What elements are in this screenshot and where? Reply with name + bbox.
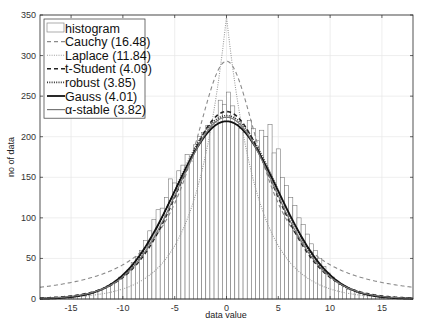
y-tick-label: 300	[21, 51, 36, 61]
histogram-bar	[231, 106, 235, 299]
histogram-bar	[227, 92, 231, 299]
histogram-bar	[189, 161, 193, 299]
histogram-bar	[193, 145, 197, 299]
y-tick-label: 0	[31, 294, 36, 304]
histogram-bar	[222, 104, 226, 299]
y-tick-label: 100	[21, 213, 36, 223]
x-tick-label: -5	[171, 303, 179, 313]
histogram-bar	[285, 185, 289, 299]
histogram-bar	[214, 122, 218, 299]
histogram-bar	[218, 100, 222, 299]
histogram-bar	[210, 127, 214, 299]
x-tick-label: 15	[377, 303, 387, 313]
histogram-bar	[347, 289, 351, 299]
histogram-bar	[235, 125, 239, 299]
histogram-bar	[123, 275, 127, 299]
y-tick-label: 150	[21, 172, 36, 182]
histogram-bar	[197, 137, 201, 299]
x-tick-label: 10	[325, 303, 335, 313]
legend-entry: Laplace (11.84)	[65, 49, 151, 63]
distribution-fit-chart: -15-10-5051015050100150200250300350 data…	[0, 0, 424, 334]
y-tick-label: 50	[26, 253, 36, 263]
x-tick-label: -10	[116, 303, 129, 313]
histogram-bar	[243, 133, 247, 299]
histogram-bar	[272, 153, 276, 299]
histogram-bar	[119, 277, 123, 299]
y-axis-label: no of data	[6, 137, 16, 177]
legend-entry: Gauss (4.01)	[65, 90, 137, 104]
histogram-bar	[276, 149, 280, 299]
y-tick-label: 350	[21, 10, 36, 20]
histogram-bar	[247, 120, 251, 299]
legend: histogramCauchy (16.48)Laplace (11.84)t-…	[44, 19, 152, 118]
legend-entry: t-Student (4.09)	[65, 62, 152, 76]
y-tick-label: 250	[21, 91, 36, 101]
histogram-bar	[293, 206, 297, 299]
histogram-bar	[239, 129, 243, 299]
x-axis-label: data value	[205, 310, 247, 320]
histogram-bar	[268, 125, 272, 299]
legend-entry: Cauchy (16.48)	[65, 35, 150, 49]
histogram-bar	[264, 137, 268, 299]
x-tick-label: 5	[276, 303, 281, 313]
legend-entry: histogram	[65, 22, 120, 36]
legend-entry: robust (3.85)	[65, 76, 136, 90]
histogram-bar	[256, 141, 260, 299]
x-tick-label: -15	[65, 303, 78, 313]
y-tick-label: 200	[21, 132, 36, 142]
histogram-bar	[251, 129, 255, 299]
histogram-bar	[206, 125, 210, 299]
legend-entry: α-stable (3.82)	[65, 103, 146, 117]
